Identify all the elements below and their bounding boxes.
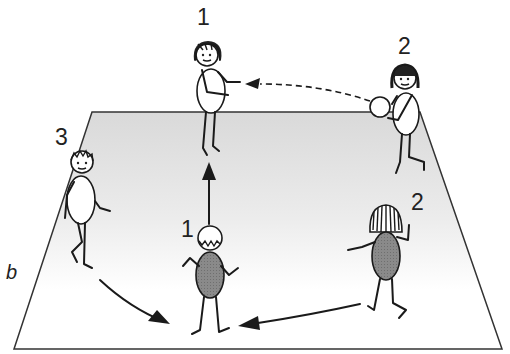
playing-field-diagram: b 1 2 xyxy=(0,0,510,354)
player-number-label: 3 xyxy=(55,124,68,150)
player-number-label: 1 xyxy=(197,4,210,30)
player-number-label: 2 xyxy=(398,33,411,59)
player-number-label: 1 xyxy=(181,216,194,242)
pass-arrow-dashed xyxy=(245,78,370,101)
field xyxy=(14,112,502,349)
panel-label: b xyxy=(6,261,17,283)
player-number-label: 2 xyxy=(411,189,424,215)
